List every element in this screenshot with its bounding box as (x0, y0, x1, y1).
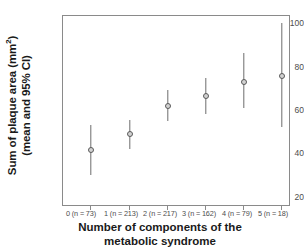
x-tick-label-1: 1 (n = 213) (104, 209, 138, 218)
x-tick-label-5: 5 (n = 18) (258, 209, 288, 218)
data-point-0 (88, 147, 94, 153)
x-tick-label-0: 0 (n = 73) (66, 209, 96, 218)
plot-area (62, 15, 290, 206)
data-point-4 (241, 79, 247, 85)
y-axis-title: Sum of plaque area (mm2) (mean and 95% C… (0, 0, 40, 210)
data-point-3 (203, 93, 209, 99)
data-point-1 (127, 131, 133, 137)
x-tick-label-2: 2 (n = 217) (143, 209, 177, 218)
y-axis-title-line1-post: ) (7, 35, 19, 39)
x-axis-title: Number of components of the metabolic sy… (40, 220, 280, 248)
y-axis-title-line1-pre: Sum of plaque area (mm (7, 43, 19, 174)
y-axis-title-superscript: 2 (5, 39, 14, 43)
x-tick-label-4: 4 (n = 79) (222, 209, 252, 218)
y-axis-title-line2: (mean and 95% CI) (20, 35, 34, 174)
data-point-2 (165, 103, 171, 109)
plot-inner (63, 16, 289, 205)
x-axis-title-line2: metabolic syndrome (40, 234, 280, 248)
data-point-5 (279, 73, 285, 79)
x-axis-title-line1: Number of components of the (78, 221, 242, 233)
x-tick-label-3: 3 (n = 162) (182, 209, 216, 218)
chart-figure: Sum of plaque area (mm2) (mean and 95% C… (0, 0, 304, 251)
